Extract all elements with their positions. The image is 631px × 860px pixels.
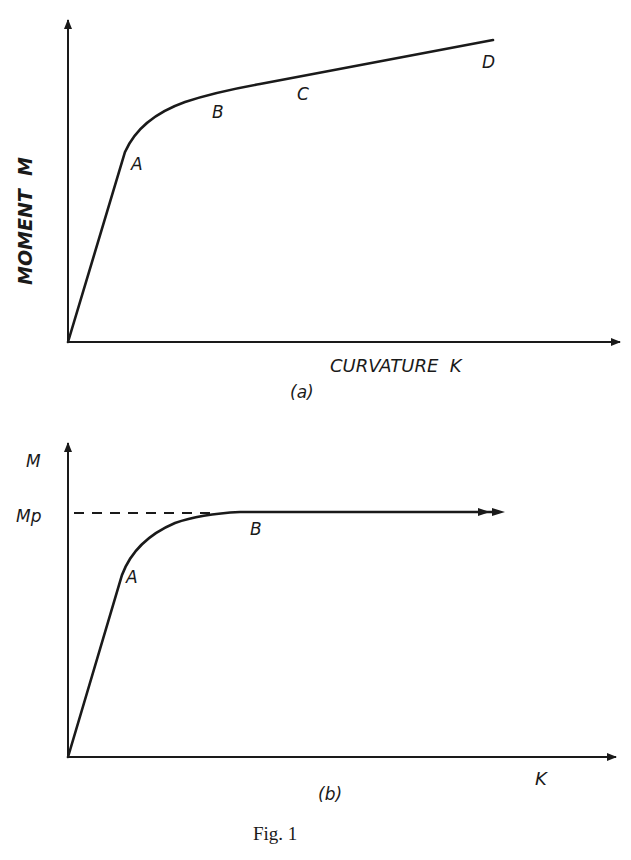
panel-b-point-b: B (250, 519, 262, 539)
panel-a: MOMENT M A B C D CURVATURE K (a) (14, 20, 620, 402)
panel-a-y-axis-label: MOMENT M (14, 157, 36, 285)
panel-b-x-axis-label: K (535, 768, 548, 789)
panel-a-x-axis-label: CURVATURE K (330, 355, 463, 376)
panel-b-moment-curvature-curve (68, 512, 494, 757)
panel-a-point-c: C (297, 84, 309, 104)
figure-canvas: MOMENT M A B C D CURVATURE K (a) M Mp A … (0, 0, 631, 860)
panel-a-caption: (a) (290, 382, 314, 402)
panel-a-point-a: A (130, 154, 143, 174)
panel-b-caption: (b) (318, 784, 342, 804)
panel-a-point-b: B (212, 102, 224, 122)
panel-b-y-axis-label: M (26, 451, 41, 471)
panel-b: M Mp A B K (b) (16, 443, 616, 804)
panel-b-point-a: A (125, 567, 138, 587)
panel-a-point-d: D (482, 52, 495, 72)
panel-b-mp-label: Mp (16, 506, 42, 526)
figure-caption: Fig. 1 (253, 823, 297, 844)
panel-a-moment-curvature-curve (68, 40, 493, 342)
